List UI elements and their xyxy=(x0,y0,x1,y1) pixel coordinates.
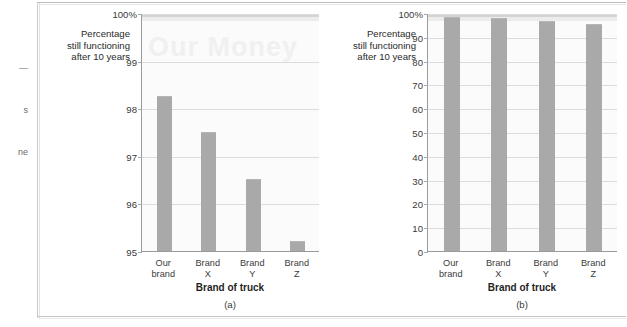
figure-b-y-axis-label: Percentage still functioning after 10 ye… xyxy=(330,28,416,63)
y-tick-label-a-97: 97 xyxy=(126,151,137,162)
figure-page: —sne Percentage still functioning after … xyxy=(0,0,627,327)
figure-b-x-axis-title: Brand of truck xyxy=(427,282,617,293)
y-tick-mark-a-96 xyxy=(138,204,142,205)
figure-a-plot-area: Our Money 9596979899100% xyxy=(141,14,319,252)
bar-a-0[interactable] xyxy=(157,96,172,251)
y-tick-mark-a-98 xyxy=(138,109,142,110)
y-tick-label-b-0: 0 xyxy=(418,247,423,258)
bar-b-0[interactable] xyxy=(444,17,460,251)
figure-a-plot-top-rule-2 xyxy=(142,17,319,21)
y-tick-mark-b-0 xyxy=(424,252,428,253)
x-category-label-a-2: Brand Y xyxy=(230,258,275,280)
gridline-a-99 xyxy=(142,62,319,63)
y-tick-label-b-100: 100% xyxy=(398,9,423,20)
bar-b-3[interactable] xyxy=(586,24,602,251)
x-category-label-b-1: Brand X xyxy=(475,258,523,280)
gridline-a-100 xyxy=(142,14,319,15)
y-tick-mark-b-60 xyxy=(424,109,428,110)
y-tick-label-b-70: 70 xyxy=(412,80,423,91)
y-tick-mark-b-90 xyxy=(424,38,428,39)
figure-b-plot-area: 0102030405060708090100% xyxy=(427,14,617,252)
margin-scrap-0: — xyxy=(0,63,30,73)
page-frame-left-rule-2 xyxy=(39,2,40,318)
y-tick-mark-b-20 xyxy=(424,204,428,205)
y-tick-label-b-40: 40 xyxy=(412,151,423,162)
y-tick-mark-a-97 xyxy=(138,157,142,158)
y-tick-mark-b-100 xyxy=(424,14,428,15)
figure-a-watermark: Our Money xyxy=(148,32,318,63)
x-category-label-b-0: Our brand xyxy=(427,258,475,280)
y-tick-label-a-99: 99 xyxy=(126,56,137,67)
bar-a-3[interactable] xyxy=(290,241,305,251)
figure-b: Percentage still functioning after 10 ye… xyxy=(330,0,620,327)
y-tick-mark-b-10 xyxy=(424,228,428,229)
y-tick-label-a-100: 100% xyxy=(112,9,137,20)
y-tick-mark-b-40 xyxy=(424,157,428,158)
bar-b-2[interactable] xyxy=(539,21,555,251)
figure-a-x-axis-title: Brand of truck xyxy=(141,282,319,293)
x-category-label-a-0: Our brand xyxy=(141,258,186,280)
x-category-label-b-2: Brand Y xyxy=(522,258,570,280)
y-tick-label-b-10: 10 xyxy=(412,223,423,234)
margin-scrap-2: ne xyxy=(0,147,30,157)
y-tick-mark-b-80 xyxy=(424,62,428,63)
y-tick-mark-a-95 xyxy=(138,252,142,253)
figure-b-x-axis-line xyxy=(428,251,617,253)
y-tick-mark-b-30 xyxy=(424,181,428,182)
y-tick-label-b-60: 60 xyxy=(412,104,423,115)
gridline-b-100 xyxy=(428,14,617,15)
y-tick-label-a-96: 96 xyxy=(126,199,137,210)
y-tick-label-b-80: 80 xyxy=(412,56,423,67)
x-category-label-a-3: Brand Z xyxy=(275,258,320,280)
y-tick-mark-b-50 xyxy=(424,133,428,134)
bar-b-1[interactable] xyxy=(491,18,507,250)
x-category-label-b-3: Brand Z xyxy=(570,258,618,280)
y-tick-label-a-95: 95 xyxy=(126,247,137,258)
y-tick-label-b-50: 50 xyxy=(412,128,423,139)
x-category-label-a-1: Brand X xyxy=(186,258,231,280)
y-tick-label-b-90: 90 xyxy=(412,32,423,43)
y-tick-label-b-30: 30 xyxy=(412,175,423,186)
page-frame-left-rule xyxy=(37,2,38,318)
figure-a: Percentage still functioning after 10 ye… xyxy=(44,0,324,327)
y-tick-mark-a-99 xyxy=(138,62,142,63)
margin-scrap-1: s xyxy=(0,105,30,115)
y-tick-mark-b-70 xyxy=(424,85,428,86)
bar-a-2[interactable] xyxy=(246,179,261,250)
y-tick-label-b-20: 20 xyxy=(412,199,423,210)
bar-a-1[interactable] xyxy=(201,132,216,251)
y-tick-label-a-98: 98 xyxy=(126,104,137,115)
figure-b-caption: (b) xyxy=(427,299,617,310)
figure-a-x-axis-line xyxy=(142,251,319,253)
y-tick-mark-a-100 xyxy=(138,14,142,15)
figure-a-y-axis-label: Percentage still functioning after 10 ye… xyxy=(44,28,130,63)
figure-a-caption: (a) xyxy=(141,299,319,310)
